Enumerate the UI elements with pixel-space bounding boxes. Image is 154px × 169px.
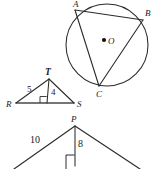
vertex-label-b: B [145,8,151,18]
chord-bc [99,20,143,86]
altitude-t [47,79,49,103]
vertex-label-c: C [96,89,103,99]
geometry-figure-sheet: A B C O T R S 5 4 [0,0,154,169]
figure-canvas: A B C O T R S 5 4 [0,0,154,169]
altitude-length-p: 8 [78,138,83,149]
right-angle-marker-rst [40,97,47,104]
chord-ab [75,10,143,20]
right-angle-marker-p [66,155,75,169]
triangle-p-group: P 10 8 [14,114,140,169]
altitude-length-t: 4 [51,87,56,97]
vertex-label-t: T [45,67,52,77]
side-length-rt: 5 [27,84,32,94]
segment-rt [16,79,49,103]
vertex-label-r: R [5,99,12,109]
circle-figure-group: A B C O [66,0,151,99]
vertex-label-a: A [72,0,79,9]
center-label-o: O [108,36,115,46]
segment-p-right [75,126,140,169]
circle-center-dot [102,38,106,42]
vertex-label-p: P [70,114,77,124]
vertex-label-s: S [77,99,82,109]
side-length-p: 10 [30,134,40,145]
triangle-rst-group: T R S 5 4 [5,67,82,109]
